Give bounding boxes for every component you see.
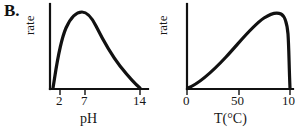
x-axis-title-temp: T(°C) bbox=[214, 112, 247, 126]
panel-letter: B. bbox=[4, 2, 20, 19]
chart-rate-vs-temperature: rate 0 50 100 T(°C) bbox=[160, 0, 295, 134]
plot-area-ph bbox=[28, 0, 150, 100]
chart-rate-vs-ph: rate 2 7 14 pH bbox=[28, 0, 150, 134]
x-axis-title-ph: pH bbox=[80, 112, 97, 126]
plot-area-temp bbox=[160, 0, 295, 100]
x-tick-label-ph-2: 2 bbox=[56, 94, 63, 107]
x-tick-label-ph-7: 7 bbox=[81, 94, 88, 107]
x-tick-label-temp-0: 0 bbox=[183, 94, 190, 107]
x-tick-label-ph-14: 14 bbox=[133, 94, 146, 107]
curve-rate-vs-temperature bbox=[188, 13, 290, 88]
curve-rate-vs-ph bbox=[53, 12, 140, 88]
x-tick-label-temp-50: 50 bbox=[231, 94, 244, 107]
x-tick-label-temp-100: 100 bbox=[282, 94, 295, 107]
figure-panel: B. rate 2 7 14 pH rate bbox=[0, 0, 295, 134]
